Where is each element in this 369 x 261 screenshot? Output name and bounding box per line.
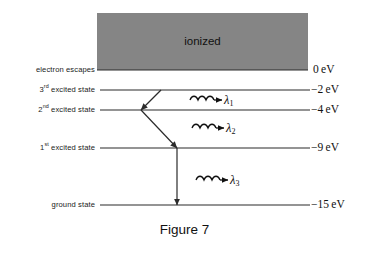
energy-value-first-excited-state: −9 eV: [311, 141, 339, 153]
level-label-second-excited-state: 2nd excited state: [38, 105, 95, 114]
figure-caption: Figure 7: [0, 222, 369, 237]
transition-lambda-1-label: λ1: [224, 93, 233, 108]
transition-lambda-1-arrow: [141, 90, 161, 110]
transition-lambda-3-photon-wave-icon: [196, 176, 220, 180]
level-lines-group: [97, 70, 310, 205]
energy-value-third-excited-state: −2 eV: [311, 83, 339, 95]
level-label-third-excited-state: 3rd excited state: [40, 85, 95, 94]
transition-lambda-3-label: λ3: [230, 173, 239, 188]
ionized-label: ionized: [97, 35, 308, 47]
photon-wave-group: [190, 96, 228, 180]
level-label-electron-escapes: electron escapes: [36, 65, 95, 74]
transition-lambda-2-label: λ2: [226, 121, 235, 136]
energy-level-diagram: ionized electron escapes3rd excited stat…: [0, 0, 369, 261]
transition-lambda-1-photon-wave-icon: [190, 96, 214, 100]
transition-lambda-2-photon-wave-icon: [192, 124, 216, 128]
level-label-first-excited-state: 1st excited state: [40, 143, 95, 152]
energy-value-second-excited-state: −4 eV: [311, 103, 339, 115]
level-label-ground-state: ground state: [52, 200, 95, 209]
energy-value-ground-state: −15 eV: [311, 198, 345, 210]
energy-value-electron-escapes: 0 eV: [313, 63, 334, 75]
transition-lambda-2-arrow: [141, 110, 177, 148]
